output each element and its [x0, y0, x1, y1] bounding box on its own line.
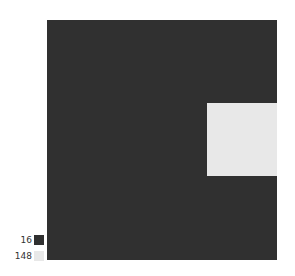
heatmap-region-148	[207, 103, 277, 176]
legend-label: 16	[21, 235, 32, 245]
chart-canvas: 16 148	[0, 0, 295, 276]
legend-item-16: 16	[14, 232, 44, 248]
legend-label: 148	[15, 251, 32, 261]
legend-swatch-dark	[34, 235, 44, 245]
legend: 16 148	[14, 232, 44, 264]
heatmap-plot-area	[47, 20, 277, 260]
legend-item-148: 148	[14, 248, 44, 264]
legend-swatch-light	[34, 251, 44, 261]
